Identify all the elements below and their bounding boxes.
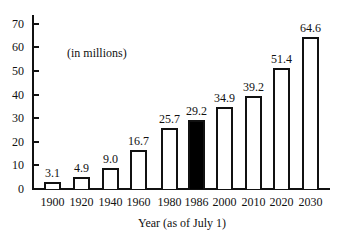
y-tick <box>33 70 39 72</box>
bar-1940 <box>102 168 119 189</box>
bar-2030 <box>302 37 319 189</box>
x-tick-label: 2020 <box>267 196 297 208</box>
bar-value-label: 39.2 <box>234 81 274 93</box>
y-tick-label: 40 <box>4 89 24 101</box>
y-tick-label: 30 <box>4 112 24 124</box>
y-tick-label: 0 <box>4 183 24 195</box>
y-tick-label: 60 <box>4 41 24 53</box>
y-tick <box>33 94 39 96</box>
x-tick-label: 1960 <box>124 196 154 208</box>
y-tick <box>33 117 39 119</box>
x-axis-label: Year (as of July 1) <box>138 216 226 231</box>
y-tick-label: 70 <box>4 18 24 30</box>
bar-1960 <box>130 150 147 189</box>
bar-1900 <box>44 182 61 189</box>
bar-value-label: 29.2 <box>177 105 217 117</box>
bar-1980 <box>161 128 178 189</box>
x-tick-label: 1920 <box>67 196 97 208</box>
x-tick-label: 2010 <box>239 196 269 208</box>
x-tick-label: 1980 <box>155 196 185 208</box>
units-annotation: (in millions) <box>67 46 127 61</box>
x-tick-label: 1986 <box>182 196 212 208</box>
y-tick <box>33 46 39 48</box>
y-tick-label: 20 <box>4 136 24 148</box>
x-tick-label: 1940 <box>96 196 126 208</box>
bar-2000 <box>216 107 233 189</box>
x-tick-label: 2030 <box>296 196 326 208</box>
y-tick <box>33 23 39 25</box>
bar-value-label: 16.7 <box>119 135 159 147</box>
x-tick-label: 1900 <box>38 196 68 208</box>
y-tick <box>33 141 39 143</box>
bar-value-label: 51.4 <box>262 53 302 65</box>
bar-chart: 010203040506070 3.119004.919209.0194016.… <box>0 0 344 239</box>
bar-1986 <box>188 120 205 189</box>
bar-2010 <box>245 96 262 189</box>
bar-value-label: 64.6 <box>291 22 331 34</box>
bar-2020 <box>273 68 290 189</box>
y-tick-label: 50 <box>4 65 24 77</box>
x-tick-label: 2000 <box>210 196 240 208</box>
bar-value-label: 9.0 <box>91 153 131 165</box>
y-tick-label: 10 <box>4 159 24 171</box>
bar-1920 <box>73 177 90 189</box>
